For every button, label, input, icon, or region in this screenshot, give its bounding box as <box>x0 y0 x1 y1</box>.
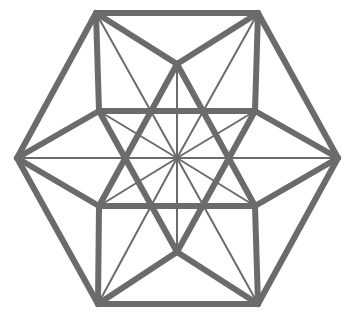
thick-edge-tl-ul <box>96 13 99 111</box>
thick-edge-bl-bot <box>98 252 177 304</box>
vector-equilibrium-diagram <box>0 0 346 318</box>
thin-radial-lines <box>17 13 338 304</box>
thick-edge-bl-ll <box>98 206 99 304</box>
thick-edge-tr-top <box>177 13 258 64</box>
thick-edge-tr-ur <box>255 13 258 111</box>
thick-edge-tl-top <box>96 13 177 64</box>
thick-edge-br-bot <box>177 252 258 304</box>
thick-edge-br-lr <box>255 206 258 304</box>
